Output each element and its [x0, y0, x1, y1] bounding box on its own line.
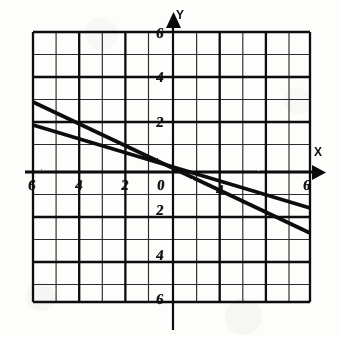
- x-axis-arrow-icon: [312, 165, 326, 180]
- plot-line-2: [33, 125, 310, 208]
- coordinate-plot: [0, 0, 338, 337]
- x-axis-label: X: [314, 146, 322, 158]
- graph-figure: 6 4 2 0 2 4 6 6 4 2 4 6 Y X: [0, 0, 338, 337]
- y-axis-label: Y: [176, 9, 184, 21]
